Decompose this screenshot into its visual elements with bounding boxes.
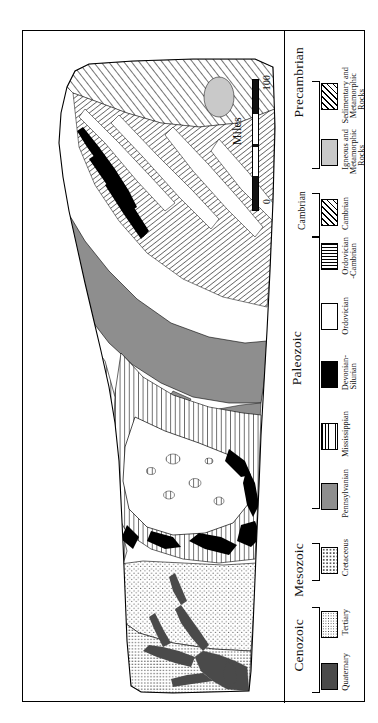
scale-bar-midtick [253,144,258,147]
scale-bar-min-label: 0 [262,199,272,204]
scale-bar-segment-upper [253,80,258,114]
legend-swatch-precambrian-sedimentary [321,83,338,110]
scale-bar-title: Miles [230,117,245,145]
era-bracket-precambrian [312,81,320,169]
figure-frame: Miles 100 0 Precambrian Sedimentary and … [22,30,365,702]
legend-swatch-devonian-silurian [321,361,338,388]
scale-bar-segment-lower [253,176,258,210]
legend-swatch-mississippian [321,423,338,450]
legend-label-ordovician: Ordovician [341,297,350,335]
unit-mississippian-outlier-a [166,454,180,464]
legend-label-ordovician-cambrian-l2: -Cambrian [349,243,358,279]
legend-panel: Precambrian Sedimentary and Metamorphic … [285,31,366,703]
era-title-mesozoic: Mesozoic [291,543,307,597]
legend-label-tertiary: Tertiary [341,609,350,635]
geologic-map-panel: Miles 100 0 [23,31,284,703]
era-title-precambrian: Precambrian [291,47,307,117]
legend-swatch-ordovician [321,303,338,330]
unit-mississippian-outlier-e [147,468,156,475]
unit-mississippian-outlier-c [164,491,175,499]
legend-label-cambrian: Cambrian [341,197,350,230]
legend-swatch-quaternary [321,663,338,690]
era-bracket-cenozoic [312,607,320,693]
scale-bar-rail [252,79,259,211]
unit-mississippian-outlier-d [214,497,224,505]
legend-label-mississippian: Mississippian [341,411,350,457]
legend-label-precambrian-igneous-l3: Rocks [357,145,366,166]
legend-swatch-precambrian-igneous [321,139,338,166]
legend-swatch-tertiary [321,611,338,638]
era-bracket-mesozoic [312,543,320,581]
era-title-cenozoic: Cenozoic [291,619,307,672]
unit-mississippian-outlier-b [189,479,201,488]
unit-mississippian-outlier-f [205,458,213,464]
legend-swatch-cambrian [321,199,338,226]
legend-label-precambrian-sedimentary-l3: Rocks [357,89,366,110]
scale-bar-max-label: 100 [262,75,272,90]
legend-label-cretaceous: Cretaceous [341,539,350,576]
scale-bar: Miles 100 0 [208,71,280,221]
legend-label-quaternary: Quaternary [341,653,350,691]
era-bracket-cambrian [312,193,320,237]
era-title-cambrian: Cambrian [297,191,307,230]
legend-label-devonian-silurian-l2: Silurian [349,363,358,390]
legend-swatch-cretaceous [321,547,338,574]
era-title-paleozoic: Paleozoic [289,331,305,385]
era-bracket-paleozoic [312,237,320,509]
legend-label-pennsylvanian: Pennsylvanian [341,469,350,518]
legend-swatch-ordovician-cambrian [321,243,338,270]
legend-swatch-pennsylvanian [321,483,338,510]
